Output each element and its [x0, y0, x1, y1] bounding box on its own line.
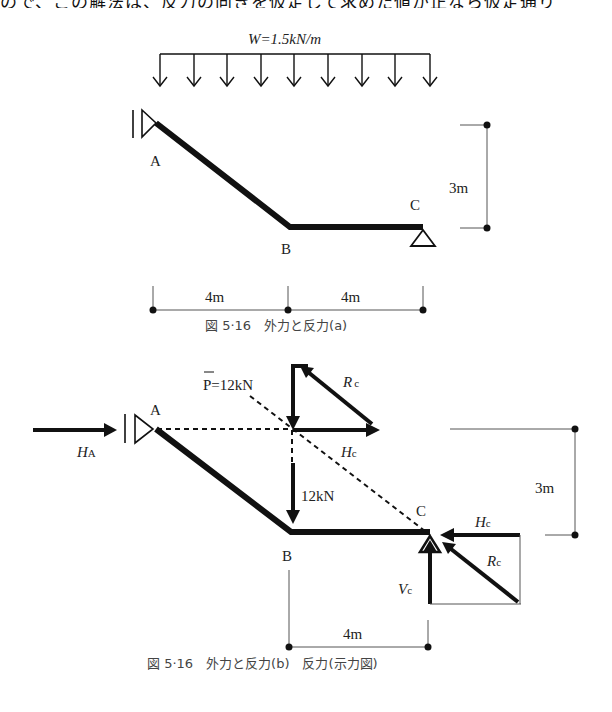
- figure-b: HA A B C P=12kN Rc Hc 12: [33, 364, 579, 671]
- rc-reaction-arrow: [442, 542, 518, 602]
- span-dim-label-2: 4m: [341, 289, 361, 305]
- span-dim-label: 4m: [343, 626, 363, 642]
- resultant-label: P=12kN: [203, 377, 253, 393]
- node-label-c: C: [416, 503, 426, 519]
- load-12kn-label: 12kN: [301, 488, 335, 504]
- rc-label-bottom: Rc: [486, 553, 501, 569]
- figure-b-caption: 図 5·16 外力と反力(b) 反力(示力図): [147, 656, 378, 671]
- height-dim-label: 3m: [535, 480, 555, 496]
- pin-support-c-icon: [411, 230, 435, 246]
- height-dim-label: 3m: [449, 180, 469, 196]
- roller-support-a-icon: [133, 110, 156, 138]
- rc-label-top: Rc: [342, 374, 359, 390]
- hc-label-top: Hc: [340, 444, 357, 460]
- height-dimension: [450, 426, 579, 539]
- vc-label: Vc: [398, 581, 412, 597]
- roller-support-a-icon: [125, 414, 153, 443]
- load-label: W=1.5kN/m: [248, 31, 321, 47]
- hc-label-bottom: Hc: [474, 514, 491, 530]
- node-label-a: A: [150, 402, 161, 418]
- ha-label: HA: [76, 444, 96, 460]
- force-polygon: [286, 364, 380, 437]
- structural-diagrams: W=1.5kN/m A B C: [0, 0, 612, 712]
- member-abc: [156, 123, 423, 227]
- node-label-b: B: [281, 241, 291, 257]
- span-dimension: [150, 286, 427, 314]
- figure-a: W=1.5kN/m A B C: [133, 31, 491, 333]
- node-label-b: B: [282, 548, 292, 564]
- ha-reaction-arrow: [33, 423, 117, 437]
- load-12kn-arrow: [286, 463, 300, 524]
- span-dim-label-1: 4m: [205, 289, 225, 305]
- distributed-load-arrows: [153, 54, 437, 86]
- node-label-a: A: [150, 153, 161, 169]
- node-label-c: C: [410, 197, 420, 213]
- figure-a-caption: 図 5·16 外力と反力(a): [205, 318, 347, 333]
- height-dimension: [460, 122, 491, 232]
